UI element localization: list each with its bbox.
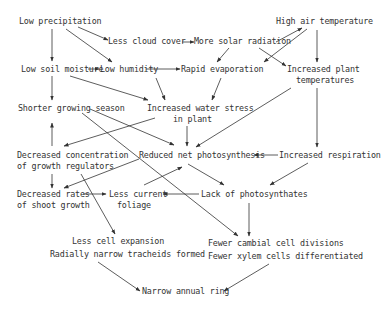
node-high-air-temperature: High air temperature: [276, 16, 373, 27]
edge-reducedphoto-lackphoto: [188, 164, 224, 185]
edge-lowsoil-incwaterstress: [70, 76, 148, 100]
node-shorter-growing-season: Shorter growing season: [18, 103, 125, 114]
node-increased-water-stress-line1: Increased water stress: [147, 103, 254, 114]
edge-incwaterstress-decconc: [64, 118, 155, 146]
node-less-current-foliage-line1: Less current: [109, 189, 167, 200]
edge-lowprecip-lowhumidity: [66, 29, 112, 62]
edge-lesscellexp-narrowring: [98, 262, 140, 291]
node-decreased-concentration-line1: Decreased concentration: [17, 150, 128, 161]
node-reduced-net-photosynthesis: Reduced net photosynthesis: [139, 150, 265, 161]
node-decreased-rates-line1: Decreased rates: [17, 189, 90, 200]
node-increased-respiration: Increased respiration: [279, 150, 381, 161]
edge-lessfoliage-reducedphoto: [144, 167, 182, 185]
node-low-soil-moisture: Low soil moisture: [21, 64, 103, 75]
node-rapid-evaporation: Rapid evaporation: [181, 64, 263, 75]
node-less-cell-expansion-line2: Radially narrow tracheids formed: [50, 249, 205, 260]
edge-rapidevap-incwaterstress: [212, 78, 221, 100]
node-low-precipitation: Low precipitation: [19, 16, 101, 27]
node-less-current-foliage-line2: foliage: [117, 200, 151, 211]
node-increased-plant-temperatures-line2: temperatures: [296, 75, 354, 86]
edge-moresolar-rapidevap: [217, 48, 229, 62]
edge-lowhumidity-incwaterstress: [156, 78, 165, 100]
node-fewer-cambial-line1: Fewer cambial cell divisions: [208, 238, 344, 249]
node-less-cell-expansion-line1: Less cell expansion: [72, 236, 164, 247]
edge-shorterseason-reducedphoto: [90, 109, 174, 145]
node-low-humidity: Low humidity: [100, 64, 158, 75]
node-narrow-annual-ring: Narrow annual ring: [142, 286, 229, 297]
edge-fewercambial-narrowring: [224, 264, 269, 291]
node-lack-of-photosynthates: Lack of photosynthates: [201, 189, 308, 200]
node-increased-water-stress-line2: in plant: [173, 114, 212, 125]
node-decreased-concentration-line2: of growth regulators: [17, 161, 114, 172]
edge-increspiration-lackphoto: [270, 163, 308, 185]
node-decreased-rates-line2: of shoot growth: [17, 200, 90, 211]
node-increased-plant-temperatures-line1: Increased plant: [287, 64, 360, 75]
edge-lowprecip-lesscloud: [78, 27, 108, 40]
node-less-cloud-cover: Less cloud cover: [108, 36, 185, 47]
node-more-solar-radiation: More solar radiation: [194, 36, 291, 47]
node-fewer-cambial-line2: Fewer xylem cells differentiated: [208, 251, 363, 262]
